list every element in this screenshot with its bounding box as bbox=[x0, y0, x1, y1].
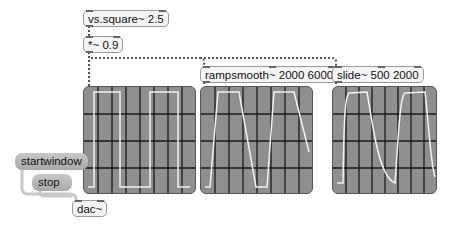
scope-square-display bbox=[84, 87, 196, 194]
mult-object[interactable]: *~ 0.9 bbox=[83, 36, 123, 53]
rampsmooth-label: rampsmooth~ 2000 6000 bbox=[205, 69, 333, 81]
vs-square-object[interactable]: vs.square~ 2.5 bbox=[83, 10, 169, 27]
rampsmooth-object[interactable]: rampsmooth~ 2000 6000 bbox=[200, 66, 338, 83]
scope-rampsmooth-display bbox=[201, 87, 313, 194]
patchcord-mult-to-slide bbox=[200, 58, 336, 66]
stop-label: stop bbox=[38, 176, 60, 188]
mult-label: *~ 0.9 bbox=[88, 39, 118, 51]
stop-message[interactable]: stop bbox=[32, 174, 72, 191]
slide-object[interactable]: slide~ 500 2000 bbox=[332, 66, 424, 83]
vs-square-label: vs.square~ 2.5 bbox=[88, 13, 164, 25]
patchcord-mult-to-rampsmooth bbox=[91, 58, 204, 66]
startwindow-message[interactable]: startwindow bbox=[15, 153, 88, 170]
scope-slide-display bbox=[333, 87, 437, 194]
scope-square[interactable] bbox=[83, 86, 196, 194]
scope-slide[interactable] bbox=[332, 86, 437, 194]
startwindow-label: startwindow bbox=[21, 155, 82, 167]
slide-label: slide~ 500 2000 bbox=[337, 69, 419, 81]
dac-label: dac~ bbox=[77, 203, 102, 215]
scope-rampsmooth[interactable] bbox=[200, 86, 313, 194]
dac-object[interactable]: dac~ bbox=[72, 200, 107, 217]
